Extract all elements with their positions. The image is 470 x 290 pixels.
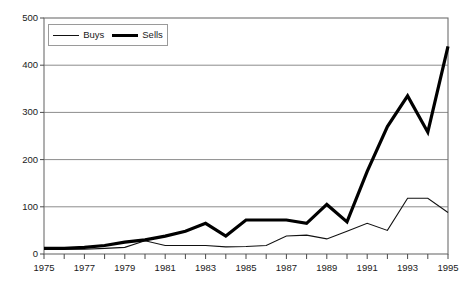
x-axis-tick-label: 1987 (266, 262, 306, 273)
y-axis-tick-label: 0 (6, 248, 38, 259)
y-axis-tick-label: 300 (6, 106, 38, 117)
x-axis-tick-label: 1989 (307, 262, 347, 273)
line-chart: 0100200300400500 19751977197919811983198… (0, 0, 470, 290)
legend-entry-buys: Buys (49, 30, 108, 40)
x-axis-tick-label: 1981 (145, 262, 185, 273)
y-axis-tick-label: 100 (6, 201, 38, 212)
legend-entry-sells: Sells (108, 30, 167, 40)
x-axis-tick-label: 1983 (186, 262, 226, 273)
y-axis-tick-label: 500 (6, 12, 38, 23)
y-axis-tick-marks (40, 18, 44, 254)
x-axis-tick-label: 1985 (226, 262, 266, 273)
x-axis-tick-marks (44, 254, 448, 259)
x-axis-tick-label: 1993 (388, 262, 428, 273)
x-axis-tick-label: 1975 (24, 262, 64, 273)
x-axis-tick-label: 1991 (347, 262, 387, 273)
y-axis-tick-label: 200 (6, 154, 38, 165)
x-axis-tick-label: 1979 (105, 262, 145, 273)
legend-swatch-sells-icon (112, 34, 138, 37)
chart-legend: Buys Sells (48, 24, 168, 46)
x-axis-tick-label: 1977 (64, 262, 104, 273)
y-axis-tick-label: 400 (6, 59, 38, 70)
legend-label-buys: Buys (83, 30, 104, 40)
legend-label-sells: Sells (142, 30, 163, 40)
x-axis-tick-label: 1995 (428, 262, 468, 273)
legend-swatch-buys-icon (53, 35, 79, 36)
